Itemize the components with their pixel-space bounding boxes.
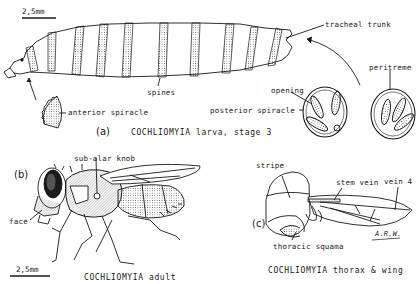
label-thoracic-squama: thoracic squama — [273, 243, 344, 251]
panel-letter-c: (c) — [252, 219, 265, 229]
label-spines: spines — [147, 89, 175, 97]
panel-letter-a: (a) — [96, 127, 110, 137]
scale-label-b: 2,5mm — [16, 266, 39, 274]
caption-larva: COCHLIOMYIA larva, stage 3 — [131, 129, 272, 137]
label-stripe: stripe — [256, 162, 284, 170]
label-anterior-spiracle: anterior spiracle — [68, 109, 148, 117]
label-tracheal-trunk: tracheal trunk — [325, 21, 391, 29]
label-opening: opening — [271, 87, 304, 95]
panel-letter-b: (b) — [14, 170, 28, 180]
caption-adult: COCHLIOMYIA adult — [84, 274, 176, 282]
caption-thorax-wing: COCHLIOMYIA thorax & wing — [268, 267, 403, 275]
illustration-canvas — [0, 0, 419, 284]
larva-drawing — [4, 18, 416, 139]
label-vein-4: vein 4 — [384, 178, 412, 186]
adult-fly-drawing — [10, 158, 200, 276]
posterior-spiracle-drawing — [303, 87, 347, 137]
scale-label-a: 2,5mm — [22, 8, 45, 16]
label-sub-alar-knob: sub-alar knob — [74, 155, 135, 163]
label-face: face — [9, 218, 28, 226]
label-peritreme: peritreme — [369, 64, 411, 72]
peritreme-drawing — [371, 89, 416, 139]
label-posterior-spiracle: posterior spiracle — [210, 107, 295, 115]
label-stem-vein: stem vein — [336, 179, 378, 187]
artist-signature: A.R.W. — [375, 231, 402, 238]
